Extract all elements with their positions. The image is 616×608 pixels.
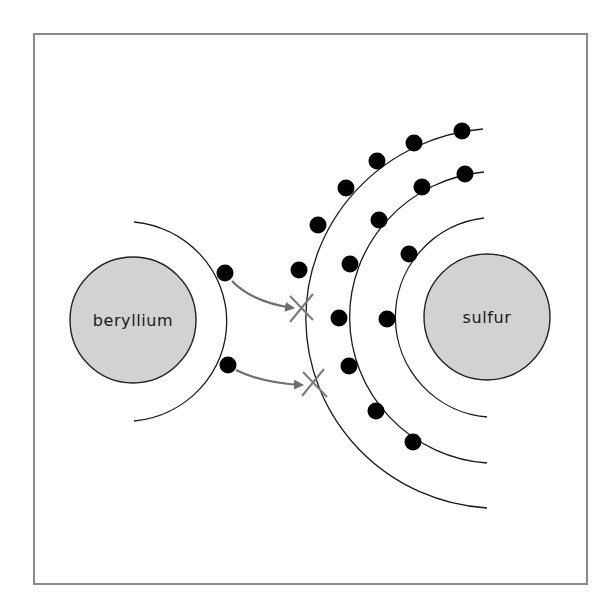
beryllium-electron: [220, 357, 237, 374]
sulfur-middle-electron: [405, 434, 422, 451]
beryllium-electron: [217, 265, 234, 282]
sulfur-middle-electron: [457, 166, 474, 183]
sulfur-middle-electron: [331, 310, 348, 327]
sulfur-outer-electron: [310, 217, 327, 234]
ionic-bond-diagram: beryllium sulfur: [0, 0, 616, 608]
sulfur-label: sulfur: [463, 308, 512, 327]
beryllium-label: beryllium: [93, 311, 174, 330]
sulfur-outer-electron: [454, 123, 471, 140]
sulfur-outer-electron: [291, 262, 308, 279]
sulfur-middle-electron: [371, 212, 388, 229]
sulfur-inner-electron: [379, 311, 396, 328]
sulfur-middle-electron: [368, 403, 385, 420]
sulfur-outer-electron: [406, 135, 423, 152]
sulfur-middle-electron: [342, 256, 359, 273]
sulfur-middle-electron: [341, 358, 358, 375]
sulfur-middle-electron: [414, 179, 431, 196]
sulfur-outer-electron: [338, 180, 355, 197]
sulfur-outer-electron: [369, 153, 386, 170]
sulfur-inner-electron: [401, 246, 418, 263]
